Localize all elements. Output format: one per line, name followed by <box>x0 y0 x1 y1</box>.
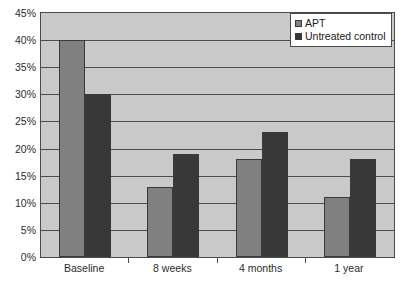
x-tick-label: 4 months <box>217 262 305 274</box>
x-tick-label: Baseline <box>40 262 128 274</box>
y-tick-label: 10% <box>0 198 36 208</box>
bars-layer <box>41 13 394 257</box>
bar[interactable] <box>324 197 350 257</box>
x-tick-label: 8 weeks <box>128 262 216 274</box>
y-tick-label: 35% <box>0 62 36 72</box>
bar-chart: 0%5%10%15%20%25%30%35%40%45% Baseline8 w… <box>0 0 407 282</box>
bar[interactable] <box>173 154 199 257</box>
bar-group <box>147 13 199 257</box>
x-tick-label: 1 year <box>305 262 393 274</box>
legend-item[interactable]: APT <box>295 17 386 30</box>
bar[interactable] <box>350 159 376 257</box>
legend-swatch-icon <box>295 20 302 27</box>
legend-label: Untreated control <box>305 30 386 43</box>
y-tick-label: 30% <box>0 89 36 99</box>
y-tick-label: 5% <box>0 225 36 235</box>
legend-item[interactable]: Untreated control <box>295 30 386 43</box>
legend-label: APT <box>305 17 325 30</box>
bar[interactable] <box>236 159 262 257</box>
y-axis: 0%5%10%15%20%25%30%35%40%45% <box>0 12 36 258</box>
y-tick-label: 45% <box>0 8 36 18</box>
y-tick-label: 20% <box>0 144 36 154</box>
y-tick-label: 25% <box>0 116 36 126</box>
bar[interactable] <box>262 132 288 257</box>
bar-group <box>236 13 288 257</box>
legend-swatch-icon <box>295 33 302 40</box>
x-axis: Baseline8 weeks4 months1 year <box>40 262 395 282</box>
y-tick-label: 40% <box>0 35 36 45</box>
bar[interactable] <box>85 94 111 257</box>
chart-legend: APTUntreated control <box>290 13 392 47</box>
bar-group <box>59 13 111 257</box>
bar[interactable] <box>59 40 85 257</box>
plot-area <box>40 12 395 258</box>
bar-group <box>324 13 376 257</box>
bar[interactable] <box>147 187 173 257</box>
y-tick-label: 15% <box>0 171 36 181</box>
y-tick-label: 0% <box>0 252 36 262</box>
